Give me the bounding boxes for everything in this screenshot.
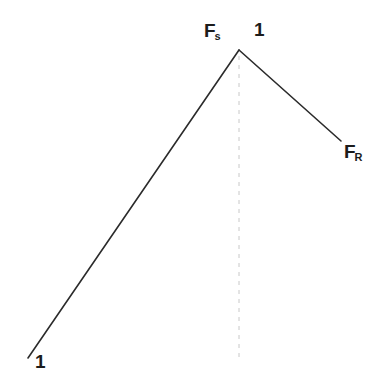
peak-left-label: Fs (204, 21, 222, 40)
peak-left-label-subscript: s (214, 30, 220, 42)
peak-value-label: 1 (254, 20, 265, 39)
rising-segment-line (28, 50, 239, 358)
line-diagram (0, 0, 377, 392)
right-endpoint-label-subscript: R (354, 151, 362, 163)
plot-lines (28, 50, 341, 362)
right-endpoint-label: FR (344, 142, 363, 161)
figure-canvas: Fs 1 FR 1 (0, 0, 377, 392)
falling-segment-line (239, 50, 341, 141)
origin-value-label: 1 (35, 352, 46, 371)
